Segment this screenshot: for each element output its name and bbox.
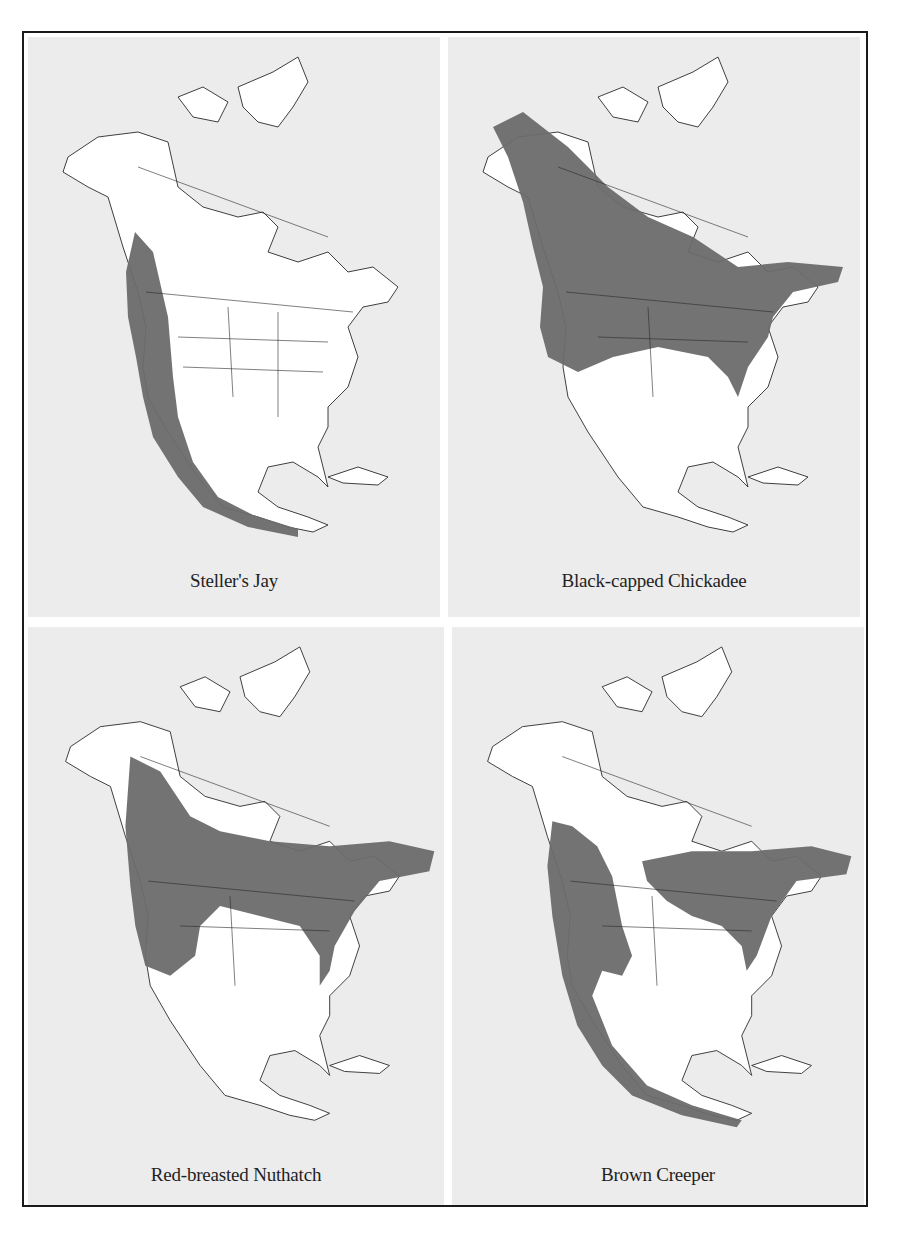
land: [63, 57, 398, 532]
map-caption: Red-breasted Nuthatch: [28, 1164, 444, 1186]
map-caption: Steller's Jay: [28, 570, 440, 592]
map-panel-red-breasted-nuthatch: Red-breasted Nuthatch: [28, 627, 444, 1205]
map-caption: Brown Creeper: [452, 1164, 864, 1186]
map-caption: Black-capped Chickadee: [448, 570, 860, 592]
map-panel-black-capped-chickadee: Black-capped Chickadee: [448, 37, 860, 617]
north-america-map: [452, 627, 864, 1205]
map-panel-stellers-jay: Steller's Jay: [28, 37, 440, 617]
north-america-map: [28, 627, 444, 1205]
north-america-map: [28, 37, 440, 617]
north-america-map: [448, 37, 860, 617]
map-panel-brown-creeper: Brown Creeper: [452, 627, 864, 1205]
figure-frame: Steller's Jay Black-capped Chickadee: [22, 31, 868, 1207]
